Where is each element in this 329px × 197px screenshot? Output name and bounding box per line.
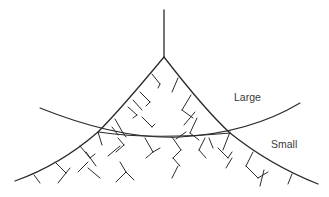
right-branches	[172, 78, 292, 186]
small-label: Small	[271, 138, 297, 150]
branching-diagram: Large Small	[0, 0, 329, 197]
right-limb	[164, 57, 318, 184]
tree-diagram-svg	[0, 0, 329, 197]
left-limb	[15, 57, 164, 181]
large-curve	[40, 103, 300, 137]
left-branches	[34, 74, 160, 183]
large-label: Large	[234, 91, 261, 103]
